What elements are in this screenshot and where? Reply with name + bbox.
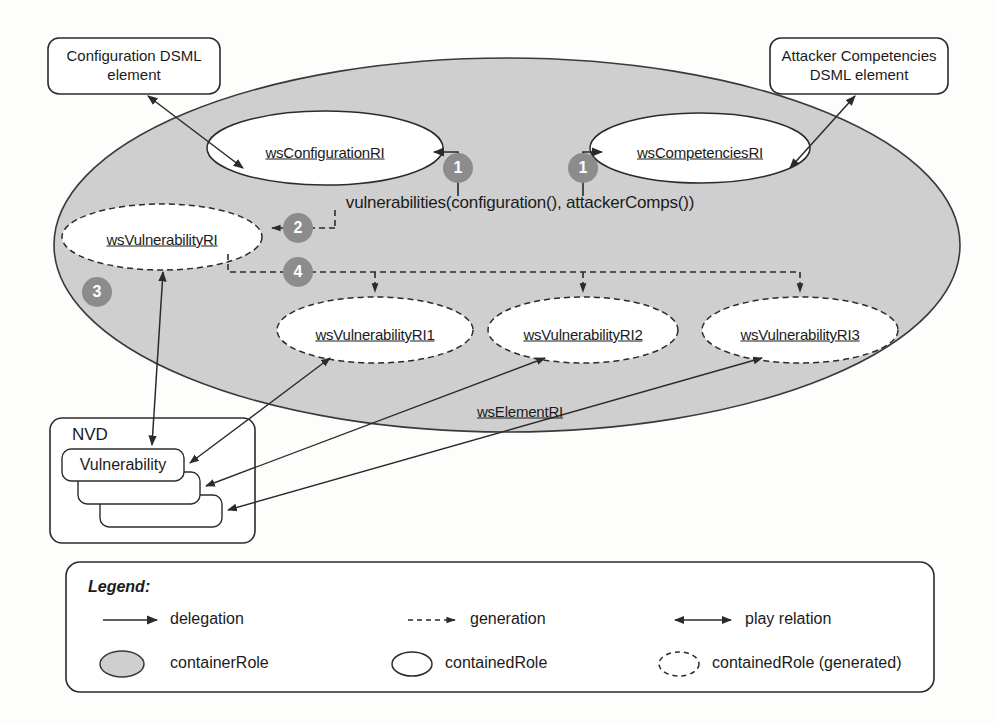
marker-3-circle [82, 277, 112, 307]
marker-1-right-circle [568, 153, 598, 183]
legend-contained-role-ellipse [392, 652, 432, 676]
ws-configuration-ri-ellipse[interactable] [207, 111, 443, 185]
marker-2-circle [283, 213, 313, 243]
ws-vulnerability-ri2-ellipse[interactable] [488, 297, 678, 363]
configuration-note-box [48, 38, 220, 94]
ws-vulnerability-ri-ellipse[interactable] [62, 204, 262, 270]
ws-vulnerability-ri1-ellipse[interactable] [277, 297, 473, 363]
marker-1-left-circle [443, 153, 473, 183]
marker-4-circle [283, 257, 313, 287]
legend-container-role-ellipse [100, 651, 144, 677]
attacker-note-box [770, 38, 948, 94]
diagram-canvas: Configuration DSML element Attacker Comp… [0, 0, 997, 724]
ws-vulnerability-ri3-ellipse[interactable] [702, 297, 898, 363]
diagram-svg [0, 0, 997, 724]
legend-box [66, 562, 934, 692]
ws-competencies-ri-ellipse[interactable] [590, 113, 810, 183]
nvd-item-1[interactable] [62, 449, 184, 481]
legend-generated-role-ellipse [659, 652, 699, 676]
